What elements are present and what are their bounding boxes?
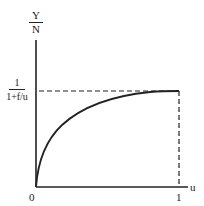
x-axis-label: u — [190, 182, 196, 193]
y-axis-label-denominator: N — [29, 23, 43, 35]
asymptote-level-denominator: 1+f/u — [0, 90, 34, 102]
y-axis-label: Y N — [29, 10, 43, 35]
y-axis-label-numerator: Y — [29, 10, 43, 23]
asymptote-level-numerator: 1 — [9, 77, 25, 90]
data-curve — [36, 91, 179, 187]
asymptote-level-label: 1 1+f/u — [0, 77, 34, 102]
x-tick-label-one: 1 — [176, 192, 182, 203]
origin-tick-label: 0 — [29, 192, 35, 203]
